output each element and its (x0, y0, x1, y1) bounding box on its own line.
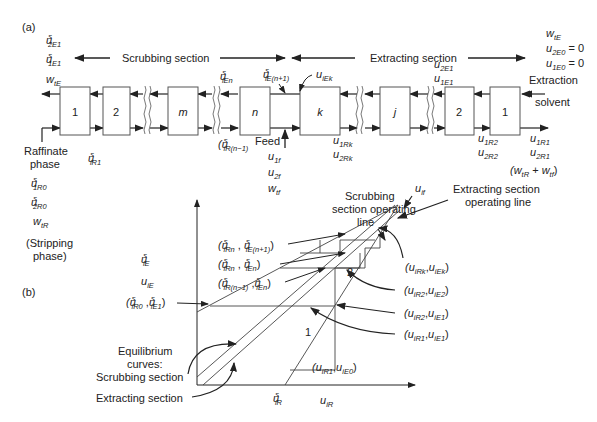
stage-label: n (252, 106, 258, 118)
label-uiR1: usiR1 (88, 150, 101, 167)
label-u1E1: u1E1 (434, 72, 453, 87)
equilibrium-label-3: Scrubbing section (96, 371, 183, 383)
stage-number-1: 1 (305, 326, 311, 338)
extracting-op-label-1: Extracting section (453, 183, 540, 195)
label-u2R2: u2R2 (478, 146, 499, 161)
stripping-label-line2: phase) (33, 250, 67, 262)
label-wtE-left: wtE (46, 73, 62, 88)
label-u1R1: u1R1 (530, 132, 550, 147)
x-label-uiR-s: usiR (273, 390, 283, 407)
panel-a: (a) us2E1 us1E1 Scrubbing section Extrac… (22, 21, 584, 262)
label-u2E0: u2E0 = 0 (546, 42, 584, 57)
extracting-section-label: Extracting section (370, 52, 457, 64)
equilibrium-label-2: curves: (127, 358, 162, 370)
panel-a-label: (a) (22, 21, 35, 33)
stage-number-2: 2 (347, 266, 353, 278)
label-u1R0: us1R0 (31, 175, 47, 192)
scrubbing-op-label-3: line (357, 216, 374, 228)
feed-label: Feed (255, 135, 280, 147)
point-uiR2-uiE1: (uiR2,uiE1) (404, 307, 449, 322)
solvent-label-line2: solvent (535, 96, 570, 108)
scrubbing-op-label-2: section operating (332, 203, 416, 215)
label-u2Rk: u2Rk (333, 148, 354, 163)
extracting-section-label-b: Extracting section (96, 392, 183, 404)
label-uiE-n1: usiE(n+1) (263, 66, 290, 83)
label-u2E1-s: us2E1 (46, 32, 61, 49)
stripping-label-line1: (Stripping (26, 237, 73, 249)
label-u2R0: us2R0 (31, 194, 47, 211)
extracting-op-label-2: operating line (465, 196, 531, 208)
point-uiRn-uiEn: (usiRn , usiEn) (218, 256, 260, 273)
diagram-canvas: (a) us2E1 us1E1 Scrubbing section Extrac… (0, 0, 597, 422)
extracting-operating-line (285, 205, 398, 385)
label-uif: uif (415, 182, 426, 197)
scrubbing-section-label: Scrubbing section (122, 52, 209, 64)
label-uiEk: uiEk (316, 68, 334, 83)
label-wtf: wtf (268, 182, 281, 197)
label-uiR-n-1: (usiR(n−1) (218, 136, 249, 153)
label-wtR: wtR (33, 215, 49, 230)
equilibrium-label-1: Equilibrium (118, 345, 172, 357)
panel-b-label: (b) (22, 286, 35, 298)
panel-b: (b) usiE uiE (usiR0 ,usiE1) usiR uiR (22, 182, 540, 409)
point-uiR1-uiE1: (uiR1,uiE1) (404, 328, 449, 343)
stage-label: 1 (502, 106, 508, 118)
stage-label: m (178, 106, 187, 118)
label-u2R1: u2R1 (530, 146, 550, 161)
label-uiEn: usiEn (220, 68, 233, 85)
point-uiR2-uiE2: (uiR2,uiE2) (404, 284, 449, 299)
x-label-uiR: uiR (320, 394, 334, 409)
label-u1E1-s: us1E1 (46, 51, 61, 68)
stage-label: 2 (113, 106, 119, 118)
raffinate-label-line1: Raffinate (24, 145, 68, 157)
point-uiRk-uiEk: (uiRk,uiEk) (405, 261, 449, 276)
label-wtE-right: wtE (546, 27, 562, 42)
point-uiR1-uiE0: (uiR1,uiE0) (312, 361, 357, 376)
y-label-uiE-s: usiE (141, 251, 151, 268)
stage-label: k (317, 106, 323, 118)
label-u1E0: u1E0 = 0 (546, 57, 584, 72)
label-w-sum: (wtR + wtf) (510, 164, 557, 179)
solvent-label-line1: Extraction (529, 74, 578, 86)
stage-label: 2 (456, 106, 462, 118)
point-uiR-n-1-uiEn: (usiR(n−1) ,usiEn) (218, 275, 271, 292)
point-uiRn-uiE-n1: (usiRn , usiE(n+1)) (218, 237, 274, 254)
y-label-uiE: uiE (141, 275, 155, 290)
label-u1f: u1f (268, 150, 281, 165)
label-u2f: u2f (268, 166, 281, 181)
stage-label: 1 (72, 106, 78, 118)
scrubbing-op-label-1: Scrubbing (345, 190, 395, 202)
label-u1Rk: u1Rk (333, 134, 354, 149)
point-uiR0-uiE1: (usiR0 ,usiE1) (126, 294, 165, 311)
raffinate-label-line2: phase (30, 158, 60, 170)
